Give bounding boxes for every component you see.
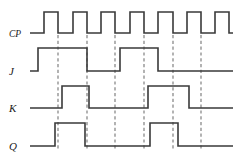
signal-label-group: CPJKQ bbox=[8, 29, 21, 152]
signal-waveform-group bbox=[30, 12, 233, 146]
waveform-cp bbox=[30, 12, 233, 33]
reference-line-group bbox=[58, 35, 201, 150]
waveform-q bbox=[30, 123, 233, 146]
label-j: J bbox=[9, 65, 15, 77]
timing-diagram-canvas: CPJKQ bbox=[0, 0, 235, 168]
label-cp: CP bbox=[9, 29, 21, 39]
label-k: K bbox=[8, 102, 17, 114]
waveform-j bbox=[30, 48, 233, 71]
label-q: Q bbox=[9, 140, 17, 152]
waveform-k bbox=[30, 86, 233, 108]
timing-diagram-figure: CPJKQ bbox=[0, 0, 235, 168]
